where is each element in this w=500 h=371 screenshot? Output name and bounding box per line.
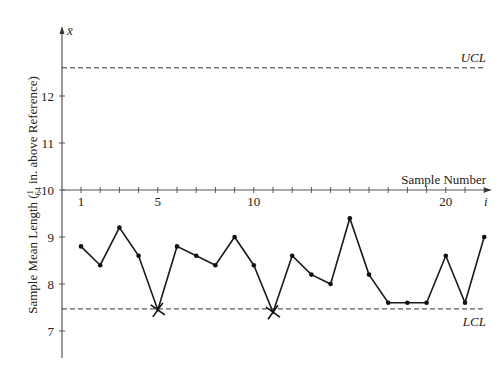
data-point: [309, 272, 314, 277]
x-tick-label: 5: [155, 194, 162, 209]
y-axis-symbol: x̄: [66, 23, 73, 38]
y-axis-arrow-icon: [60, 26, 65, 34]
x-tick-label: 10: [247, 194, 260, 209]
y-tick-label: 12: [41, 89, 54, 104]
data-point: [136, 254, 141, 259]
x-tick-label: 20: [439, 194, 452, 209]
control-chart: x̄ 789101112 151020 Sample Number i Samp…: [0, 0, 500, 371]
data-point: [482, 235, 487, 240]
data-point: [252, 263, 257, 268]
out-of-control-marker-icon: [266, 305, 280, 319]
data-point: [328, 282, 333, 287]
data-point: [232, 235, 237, 240]
data-point: [444, 254, 449, 259]
x-axis: 151020 Sample Number i: [62, 172, 492, 209]
data-point: [79, 244, 84, 249]
series-line: [81, 218, 484, 312]
data-point: [424, 301, 429, 306]
data-point: [98, 263, 103, 268]
y-tick-label: 7: [48, 324, 55, 339]
x-tick-label: 1: [78, 194, 85, 209]
svg-text:Sample Mean Length (164 in. ab: Sample Mean Length (164 in. above Refere…: [25, 76, 43, 314]
data-point: [194, 254, 199, 259]
data-point: [405, 301, 410, 306]
data-point: [348, 216, 353, 221]
data-point: [386, 301, 391, 306]
data-point: [367, 272, 372, 277]
y-tick-label: 11: [41, 136, 54, 151]
x-axis-symbol: i: [484, 194, 488, 209]
data-point: [117, 225, 122, 230]
data-series: [79, 216, 487, 319]
ucl-label: UCL: [461, 50, 486, 65]
y-tick-label: 9: [48, 230, 55, 245]
y-axis-title: Sample Mean Length (164 in. above Refere…: [25, 76, 43, 314]
y-tick-label: 8: [48, 277, 55, 292]
out-of-control-marker-icon: [151, 303, 165, 317]
x-axis-title: Sample Number: [401, 172, 487, 187]
data-point: [290, 254, 295, 259]
lcl-label: LCL: [462, 314, 486, 329]
control-limits: UCLLCL: [62, 50, 486, 329]
data-point: [175, 244, 180, 249]
data-point: [213, 263, 218, 268]
data-point: [463, 301, 468, 306]
x-axis-arrow-icon: [484, 188, 492, 193]
